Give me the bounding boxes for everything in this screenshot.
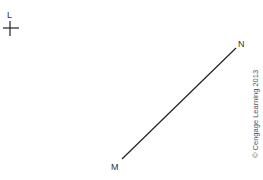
segment-mn	[122, 48, 236, 159]
point-l-marker	[3, 21, 19, 36]
point-m-label: M	[111, 162, 119, 172]
point-n-label: N	[238, 39, 245, 49]
copyright-notice: © Cengage Learning 2013	[251, 70, 260, 158]
point-l-label: L	[7, 10, 12, 20]
geometry-diagram: L M N © Cengage Learning 2013	[0, 0, 263, 180]
